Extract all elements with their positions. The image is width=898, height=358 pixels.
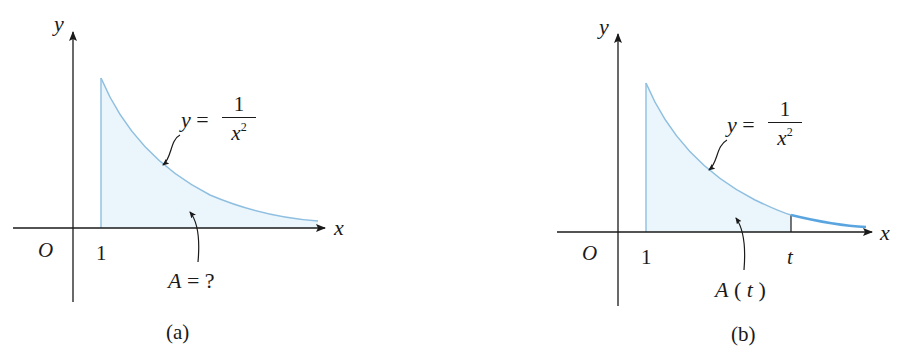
y-axis-label-a: y (54, 13, 64, 35)
caption-a: (a) (166, 322, 189, 343)
curve-pointer-arrow-a (163, 135, 180, 165)
origin-label-b: O (582, 243, 597, 264)
x-axis-label-a: x (334, 217, 344, 239)
curve-pointer-arrow-b (709, 140, 727, 170)
curve-eq-sign-a: = (196, 107, 208, 132)
area-param-t-b: t (747, 277, 753, 302)
denominator-var-a: x (231, 121, 240, 145)
caption-b: (b) (731, 324, 756, 345)
panel-b (557, 34, 872, 306)
figure-canvas (0, 0, 898, 358)
fraction-numerator-a: 1 (221, 94, 257, 117)
area-close-paren-b: ) (758, 277, 765, 302)
denominator-exponent-b: 2 (787, 125, 793, 139)
curve-tail-b (791, 215, 866, 227)
curve-eq-sign-b: = (742, 112, 754, 137)
y-axis-label-b: y (599, 16, 609, 38)
curve-eq-lhs-a: y (181, 107, 191, 132)
curve-fraction-a: 1 x2 (221, 94, 257, 144)
x-axis-label-b: x (880, 222, 890, 244)
denominator-exponent-a: 2 (241, 120, 247, 134)
tick-label-t-b: t (787, 247, 793, 268)
fraction-denominator-b: x2 (767, 123, 803, 149)
curve-eq-lhs-b: y (727, 112, 737, 137)
area-var-b: A (715, 277, 728, 302)
area-var-a: A (168, 268, 181, 293)
curve-equation-b: y = (727, 114, 755, 136)
panel-a (13, 32, 325, 302)
area-label-a: A = ? (168, 270, 215, 292)
origin-label-a: O (38, 240, 53, 261)
area-rest-a: = ? (181, 268, 214, 293)
tick-label-1-a: 1 (96, 243, 107, 264)
denominator-var-b: x (777, 126, 786, 150)
area-region-a (101, 78, 318, 228)
area-label-b: A ( t ) (715, 279, 766, 301)
curve-equation-a: y = (181, 109, 209, 131)
tick-label-1-b: 1 (641, 247, 652, 268)
curve-fraction-b: 1 x2 (767, 99, 803, 149)
area-open-paren-b: ( (734, 277, 741, 302)
fraction-numerator-b: 1 (767, 99, 803, 122)
fraction-denominator-a: x2 (221, 118, 257, 144)
